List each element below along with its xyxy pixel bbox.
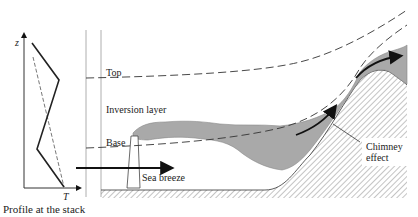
t-axis-label: T xyxy=(63,191,70,202)
sea-breeze-label: Sea breeze xyxy=(142,172,186,183)
inversion-layer-label: Inversion layer xyxy=(106,104,167,115)
z-axis-label: z xyxy=(14,37,19,48)
inversion-layer-diagram: z T Profile at the stack Top Inversion l… xyxy=(0,0,418,217)
chimney-effect-label-line2: effect xyxy=(366,152,389,163)
adiabatic-profile-line xyxy=(33,57,64,187)
base-label: Base xyxy=(106,137,126,148)
temperature-profile: z T Profile at the stack xyxy=(3,35,86,215)
profile-caption: Profile at the stack xyxy=(3,203,86,215)
smokestack xyxy=(127,136,140,188)
chimney-effect-label-line1: Chimney xyxy=(366,141,403,152)
top-label: Top xyxy=(106,67,121,78)
inversion-top-line xyxy=(86,10,407,78)
